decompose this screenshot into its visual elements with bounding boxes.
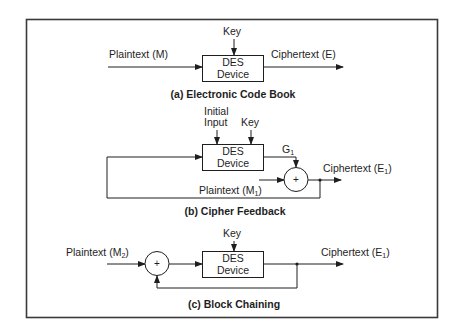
cbc-ciphertext-label: Ciphertext (E1) (321, 246, 390, 259)
ecb-ciphertext-label: Ciphertext (E) (271, 48, 336, 60)
ecb-box-line1: DES (222, 56, 244, 68)
ecb-plaintext-label: Plaintext (M) (109, 48, 168, 60)
des-modes-diagram: Plaintext (M) Ciphertext (E) Key DES Dev… (0, 0, 460, 333)
cbc-key-label: Key (223, 227, 242, 239)
cfb-box-line2: Device (217, 157, 249, 169)
cbc-box-line1: DES (222, 252, 244, 264)
section-cfb: Initial Input Key DES Device G1 + Plaint… (107, 105, 392, 217)
ecb-key-label: Key (223, 25, 242, 37)
cfb-initial-label-line2: Input (204, 116, 227, 128)
section-ecb: Plaintext (M) Ciphertext (E) Key DES Dev… (108, 25, 343, 100)
cfb-plaintext-label: Plaintext (M1) (199, 184, 262, 197)
cfb-ciphertext-label: Ciphertext (E1) (323, 162, 392, 175)
cfb-box-line1: DES (222, 145, 244, 157)
cbc-xor-symbol: + (154, 258, 160, 269)
cfb-caption: (b) Cipher Feedback (185, 205, 286, 217)
cbc-box-line2: Device (217, 264, 249, 276)
cfb-g-label: G1 (282, 143, 294, 156)
cbc-caption: (c) Block Chaining (188, 298, 280, 310)
cfb-key-label: Key (241, 116, 260, 128)
cfb-g1-path (264, 157, 296, 167)
ecb-box-line2: Device (217, 68, 249, 80)
ecb-caption: (a) Electronic Code Book (171, 88, 296, 100)
cfb-xor-symbol: + (293, 174, 299, 185)
cbc-plaintext-label: Plaintext (M2) (66, 246, 129, 259)
section-cbc: Key Plaintext (M2) + DES Device Cipherte… (66, 227, 390, 310)
